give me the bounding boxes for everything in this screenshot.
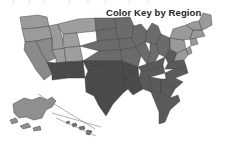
- region-alaska[interactable]: [10, 97, 56, 131]
- hawaii-inset-divider-line-lower: [56, 118, 96, 136]
- us-choropleth-map: [0, 0, 225, 150]
- region-west[interactable]: [24, 38, 56, 80]
- alaska-inset-divider-line: [38, 94, 95, 129]
- map-figure: Color Key by Region: [0, 0, 225, 150]
- region-south-central[interactable]: [47, 61, 143, 116]
